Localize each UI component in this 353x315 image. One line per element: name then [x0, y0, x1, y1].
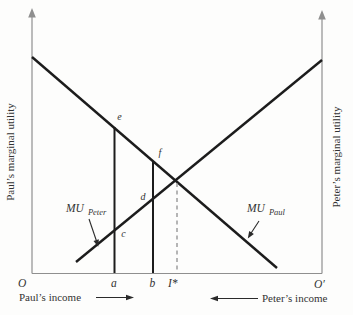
point-label-f: f [159, 147, 163, 158]
mu-paul-curve [32, 57, 277, 268]
origin-right-label: O′ [314, 278, 325, 290]
tick-label-a: a [111, 277, 117, 289]
mu-paul-label: MU Paul [246, 198, 286, 217]
mu-peter-pointer-line [89, 219, 97, 241]
utility-diagram-svg: MU Peter MU Paul e f d c O a b I* O′ Pau… [0, 0, 353, 315]
paul-income-caption: Paul’s income [19, 291, 81, 303]
mu-paul-label-main: MU [246, 202, 266, 214]
tick-label-istar: I* [167, 277, 178, 289]
right-axis-arrow-icon [318, 10, 326, 20]
mu-paul-pointer-arrow-icon [248, 231, 254, 238]
origin-left-label: O [18, 277, 27, 289]
left-axis-arrow-icon [28, 8, 36, 18]
point-label-d: d [141, 191, 147, 202]
mu-peter-curve [76, 60, 322, 262]
axes-group [28, 8, 326, 274]
x-axis-labels-group: O a b I* O′ [18, 277, 325, 290]
peter-income-left-arrow-icon [210, 296, 218, 302]
point-label-c: c [121, 228, 126, 239]
paul-income-right-arrow-icon [126, 295, 134, 301]
mu-peter-label: MU Peter [65, 198, 107, 217]
point-label-e: e [117, 111, 122, 122]
mu-peter-label-main: MU [65, 202, 85, 214]
mu-peter-label-sub: Peter [87, 207, 107, 217]
right-axis-caption: Peter’s marginal utility [330, 106, 342, 208]
income-captions-group: Paul’s income Peter’s income [19, 291, 328, 304]
tick-label-b: b [150, 277, 156, 289]
figure-canvas: MU Peter MU Paul e f d c O a b I* O′ Pau… [0, 0, 353, 315]
guides-group [115, 127, 178, 273]
mu-paul-label-sub: Paul [268, 207, 286, 217]
point-labels-group: e f d c [117, 111, 162, 239]
mu-paul-pointer-line [251, 221, 260, 234]
peter-income-caption: Peter’s income [262, 292, 328, 304]
left-axis-caption: Paul’s marginal utility [4, 103, 16, 201]
